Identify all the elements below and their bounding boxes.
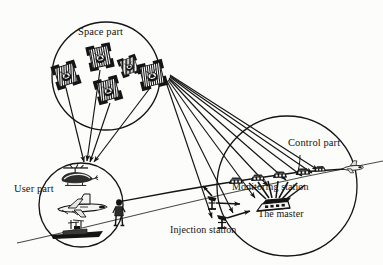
helicopter-icon xyxy=(62,164,98,185)
satellite-icon xyxy=(136,59,168,91)
ship-icon xyxy=(51,220,103,239)
station-building-icon xyxy=(251,174,265,181)
figure-canvas: Space part User part Control part Monito… xyxy=(0,0,383,265)
satellite-icon xyxy=(50,59,81,90)
satellite-icon xyxy=(117,54,142,79)
far-aircraft-icon xyxy=(342,161,363,173)
monitoring-station-label: Monitoring station xyxy=(232,182,309,192)
user-part-label: User part xyxy=(14,184,54,195)
the-master-label: The master xyxy=(258,209,304,219)
space-part-label: Space part xyxy=(78,27,123,38)
satellite-icon xyxy=(85,42,114,71)
control-part-label: Control part xyxy=(288,138,340,149)
injection-station-label: Injection station xyxy=(170,225,236,235)
station-building-icon xyxy=(273,171,287,178)
station-building-icon xyxy=(314,166,326,172)
airplane-icon xyxy=(58,194,107,217)
